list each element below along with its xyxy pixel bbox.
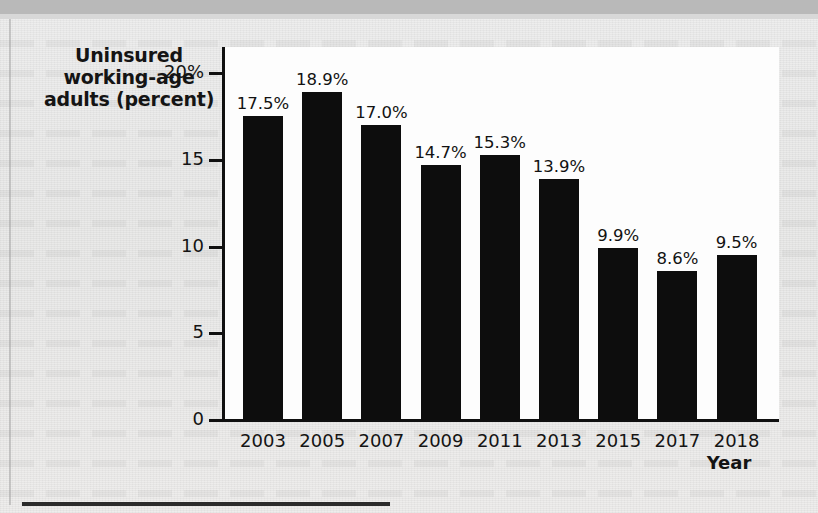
bar-value-label-2015: 9.9% bbox=[585, 226, 651, 245]
x-tick-label-2005: 2005 bbox=[291, 430, 353, 451]
bar-value-label-2013: 13.9% bbox=[526, 157, 592, 176]
y-tick-label-10: 10 bbox=[144, 235, 204, 256]
bar-2013 bbox=[539, 179, 579, 420]
bar-2007 bbox=[361, 125, 401, 420]
x-tick-label-2009: 2009 bbox=[410, 430, 472, 451]
bar-value-label-2005: 18.9% bbox=[289, 70, 355, 89]
bar-2009 bbox=[421, 165, 461, 420]
x-tick-label-2017: 2017 bbox=[646, 430, 708, 451]
bar-2015 bbox=[598, 248, 638, 420]
y-tick-5 bbox=[209, 332, 224, 335]
bar-value-label-2007: 17.0% bbox=[348, 103, 414, 122]
x-tick-label-2015: 2015 bbox=[587, 430, 649, 451]
bar-value-label-2011: 15.3% bbox=[467, 133, 533, 152]
bar-2003 bbox=[243, 116, 283, 420]
x-tick-label-2018: 2018 bbox=[706, 430, 768, 451]
bar-2005 bbox=[302, 92, 342, 420]
x-tick-label-2011: 2011 bbox=[469, 430, 531, 451]
bar-2017 bbox=[657, 271, 697, 420]
x-tick-label-2003: 2003 bbox=[232, 430, 294, 451]
y-tick-label-layer: 05101520% bbox=[140, 0, 204, 513]
y-tick-label-0: 0 bbox=[144, 408, 204, 429]
bar-chart-figure: Uninsured working-age adults (percent) 0… bbox=[0, 0, 818, 513]
y-tick-label-20: 20% bbox=[144, 61, 204, 82]
x-tick-label-2007: 2007 bbox=[350, 430, 412, 451]
bar-value-label-2018: 9.5% bbox=[704, 233, 770, 252]
y-tick-10 bbox=[209, 246, 224, 249]
bar-value-label-2003: 17.5% bbox=[230, 94, 296, 113]
y-tick-15 bbox=[209, 159, 224, 162]
x-tick-label-2013: 2013 bbox=[528, 430, 590, 451]
y-tick-20 bbox=[209, 72, 224, 75]
y-tick-label-15: 15 bbox=[144, 148, 204, 169]
y-tick-0 bbox=[209, 419, 224, 422]
bar-value-label-2009: 14.7% bbox=[408, 143, 474, 162]
bar-2018 bbox=[717, 255, 757, 420]
bar-value-label-2017: 8.6% bbox=[644, 249, 710, 268]
y-axis-line bbox=[222, 47, 225, 422]
bar-2011 bbox=[480, 155, 520, 420]
x-axis-title: Year bbox=[686, 452, 772, 473]
y-tick-label-5: 5 bbox=[144, 321, 204, 342]
